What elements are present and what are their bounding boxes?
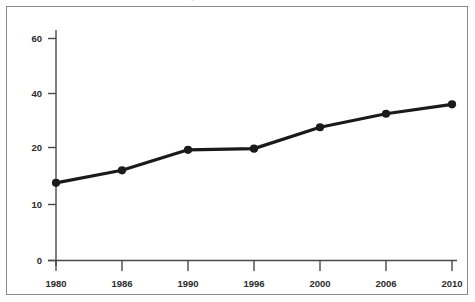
y-tick-label-10: 10 xyxy=(31,199,42,210)
x-tick-label-1996: 1996 xyxy=(243,278,264,289)
x-tick-label-1990: 1990 xyxy=(177,278,198,289)
data-point-1996 xyxy=(250,145,258,153)
line-chart-plot: 0 10 20 40 60 1980 1986 1990 1996 2000 2… xyxy=(0,0,475,302)
data-point-1986 xyxy=(118,166,126,174)
figure-container: cut-off caption 0 10 20 40 60 xyxy=(0,0,475,302)
x-axis-tick-labels: 1980 1986 1990 1996 2000 2006 2010 xyxy=(45,278,462,289)
y-tick-label-0: 0 xyxy=(37,255,42,266)
y-tick-label-20: 20 xyxy=(31,142,42,153)
data-series-line xyxy=(56,104,452,183)
y-tick-label-40: 40 xyxy=(31,88,42,99)
data-point-1980 xyxy=(52,179,60,187)
data-point-2010 xyxy=(448,100,456,108)
data-point-2000 xyxy=(316,123,324,131)
y-axis-tick-labels: 0 10 20 40 60 xyxy=(31,33,42,266)
x-tick-label-2010: 2010 xyxy=(441,278,462,289)
data-point-2006 xyxy=(382,110,390,118)
x-tick-label-2006: 2006 xyxy=(375,278,396,289)
data-point-1990 xyxy=(184,146,192,154)
y-tick-label-60: 60 xyxy=(31,33,42,44)
x-axis-ticks xyxy=(56,261,452,272)
x-tick-label-2000: 2000 xyxy=(309,278,330,289)
y-axis-ticks xyxy=(48,39,56,261)
x-tick-label-1986: 1986 xyxy=(111,278,132,289)
x-tick-label-1980: 1980 xyxy=(45,278,66,289)
